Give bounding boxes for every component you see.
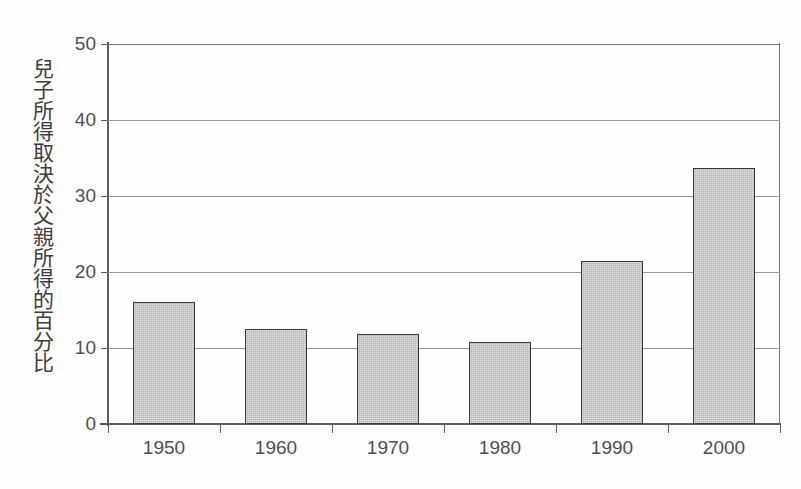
y-axis-tick-labels: 50 40 30 20 10 0: [46, 0, 96, 489]
y-tick-label-20: 20: [50, 261, 96, 283]
x-tick-label-1970: 1970: [332, 437, 444, 459]
x-tick-mark-4: [556, 424, 557, 433]
x-tick-mark-2: [332, 424, 333, 433]
bar-1960[interactable]: [245, 329, 306, 424]
x-tick-label-1990: 1990: [556, 437, 668, 459]
y-tick-label-50: 50: [50, 33, 96, 55]
x-tick-label-1950: 1950: [108, 437, 220, 459]
bar-1980[interactable]: [469, 342, 530, 424]
gridline-20: [108, 272, 780, 273]
x-tick-mark-0: [108, 424, 109, 433]
y-tick-label-10: 10: [50, 337, 96, 359]
x-tick-mark-3: [444, 424, 445, 433]
x-tick-mark-1: [220, 424, 221, 433]
bar-chart-figure: 兒子所得取決於父親所得的百分比 50 40 30 20 10 0: [0, 0, 801, 489]
bar-1950[interactable]: [133, 302, 194, 424]
y-tick-label-0: 0: [50, 413, 96, 435]
gridline-30: [108, 196, 780, 197]
x-tick-label-1960: 1960: [220, 437, 332, 459]
x-tick-label-1980: 1980: [444, 437, 556, 459]
gridline-10: [108, 348, 780, 349]
gridline-50: [108, 44, 780, 45]
plot-area: [108, 44, 780, 424]
x-tick-label-2000: 2000: [668, 437, 780, 459]
y-tick-label-40: 40: [50, 109, 96, 131]
x-tick-mark-6: [780, 424, 781, 433]
bar-1990[interactable]: [581, 261, 642, 424]
gridline-40: [108, 120, 780, 121]
bar-1970[interactable]: [357, 334, 418, 424]
bar-2000[interactable]: [693, 168, 754, 424]
y-tick-label-30: 30: [50, 185, 96, 207]
x-tick-mark-5: [668, 424, 669, 433]
